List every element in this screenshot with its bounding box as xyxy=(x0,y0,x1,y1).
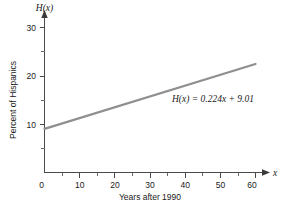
x-tick-label: 20 xyxy=(110,180,120,190)
x-axis-name-label: x xyxy=(272,168,278,178)
x-tick-label: 30 xyxy=(145,180,155,190)
equation-annotation: H(x) = 0.224x + 9.01 xyxy=(171,94,254,105)
x-tick-label: 60 xyxy=(247,180,257,190)
chart-figure: H(x) x 30 20 10 0 10 20 30 40 50 xyxy=(0,0,283,218)
y-axis-name-label: H(x) xyxy=(35,3,53,14)
line-chart-svg: H(x) x 30 20 10 0 10 20 30 40 50 xyxy=(0,0,283,218)
x-axis-arrowhead xyxy=(262,169,270,175)
x-tick-label: 50 xyxy=(216,180,226,190)
y-axis-title: Percent of Hispanics xyxy=(8,61,18,139)
y-tick-label: 10 xyxy=(27,120,37,130)
x-tick-label: 40 xyxy=(180,180,190,190)
x-tick-label: 10 xyxy=(75,180,85,190)
x-axis-title: Years after 1990 xyxy=(119,192,181,202)
x-tick-label: 0 xyxy=(39,180,44,190)
y-tick-label: 30 xyxy=(27,23,37,33)
y-tick-label: 20 xyxy=(27,71,37,81)
